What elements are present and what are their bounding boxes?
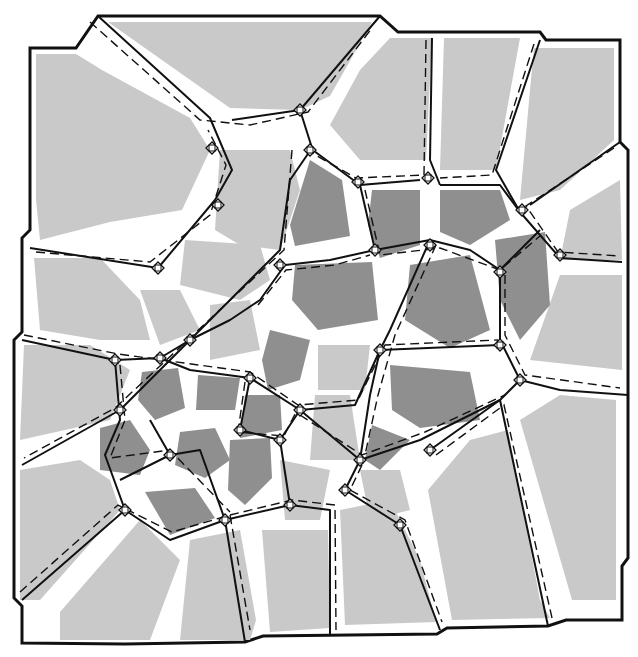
light-cell — [262, 530, 330, 632]
tessellation-diagram — [0, 0, 638, 657]
dark-cell — [196, 375, 240, 410]
light-cell — [318, 345, 370, 390]
